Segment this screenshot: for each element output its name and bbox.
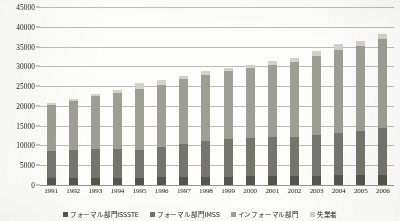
x-tick-label-1998: 1998 <box>195 187 217 199</box>
bar-segment-1993-1 <box>91 149 100 177</box>
y-tick-label-25000: 25000 <box>16 82 35 91</box>
bar-segment-2004-0 <box>334 175 343 185</box>
bar-1997[interactable] <box>179 45 188 185</box>
legend-swatch-icon-2 <box>231 212 236 217</box>
legend-item-3[interactable]: 失業者 <box>310 209 337 219</box>
legend-item-1[interactable]: フォーマル部門IMSS <box>150 209 220 219</box>
chart-legend: フォーマル部門ISSSTEフォーマル部門IMSSインフォーマル部門失業者 <box>0 209 400 219</box>
x-tick-label-1994: 1994 <box>106 187 128 199</box>
bar-segment-1991-2 <box>47 105 56 152</box>
bar-segment-1999-1 <box>224 139 233 177</box>
legend-label-0: フォーマル部門ISSSTE <box>70 209 139 219</box>
bar-slot-1998 <box>195 7 217 185</box>
plot-area <box>40 7 394 185</box>
bar-segment-1992-2 <box>69 101 78 150</box>
bar-2001[interactable] <box>268 37 277 185</box>
bar-segment-1999-2 <box>224 71 233 139</box>
bar-1992[interactable] <box>69 61 78 185</box>
bar-segment-2003-0 <box>312 176 321 185</box>
bar-slot-2004 <box>328 7 350 185</box>
bar-slot-1999 <box>217 7 239 185</box>
bar-segment-1996-1 <box>157 147 166 178</box>
bar-segment-1999-0 <box>224 177 233 185</box>
bar-1998[interactable] <box>201 43 210 185</box>
legend-swatch-icon-3 <box>310 212 315 217</box>
legend-item-2[interactable]: インフォーマル部門 <box>231 209 299 219</box>
x-tick-label-2005: 2005 <box>350 187 372 199</box>
legend-label-1: フォーマル部門IMSS <box>157 209 220 219</box>
legend-label-3: 失業者 <box>317 209 337 219</box>
y-tick-label-30000: 30000 <box>16 62 35 71</box>
x-tick-label-2000: 2000 <box>239 187 261 199</box>
bar-slot-2001 <box>261 7 283 185</box>
x-axis: 1991199219931994199519961997199819992000… <box>40 187 394 199</box>
y-axis: 0500010000150002000025000300003500040000… <box>0 7 40 185</box>
bar-slot-2003 <box>306 7 328 185</box>
x-tick-label-1992: 1992 <box>62 187 84 199</box>
bar-slot-1996 <box>151 7 173 185</box>
bar-1999[interactable] <box>224 41 233 185</box>
bar-segment-1998-1 <box>201 141 210 176</box>
x-tick-label-1995: 1995 <box>129 187 151 199</box>
bar-segment-2001-2 <box>268 65 277 137</box>
bar-slot-2005 <box>350 7 372 185</box>
bar-segment-2002-2 <box>290 62 299 136</box>
x-tick-label-2003: 2003 <box>306 187 328 199</box>
bar-1991[interactable] <box>47 64 56 185</box>
bar-slot-1995 <box>129 7 151 185</box>
bar-segment-2004-1 <box>334 133 343 175</box>
x-tick-label-1999: 1999 <box>217 187 239 199</box>
bar-1993[interactable] <box>91 58 100 185</box>
bar-2005[interactable] <box>356 25 365 185</box>
y-tick-label-0: 0 <box>31 181 35 190</box>
x-tick-label-1997: 1997 <box>173 187 195 199</box>
bar-1996[interactable] <box>157 49 166 185</box>
bar-segment-1997-2 <box>179 79 188 144</box>
bar-segment-1993-0 <box>91 178 100 185</box>
bar-segment-2006-0 <box>378 175 387 185</box>
bar-segment-2000-0 <box>246 176 255 185</box>
bar-segment-1996-0 <box>157 177 166 185</box>
bar-segment-1995-1 <box>135 150 144 178</box>
bar-2004[interactable] <box>334 27 343 185</box>
y-tick-label-15000: 15000 <box>16 121 35 130</box>
bar-segment-2005-1 <box>356 131 365 175</box>
bar-1995[interactable] <box>135 51 144 185</box>
y-tick-label-20000: 20000 <box>16 101 35 110</box>
bar-segment-2006-1 <box>378 128 387 175</box>
x-tick-label-2002: 2002 <box>283 187 305 199</box>
bar-segment-2005-2 <box>356 46 365 131</box>
bar-slot-2002 <box>283 7 305 185</box>
bar-segment-2000-1 <box>246 138 255 177</box>
bar-1994[interactable] <box>113 55 122 185</box>
gridline-0 <box>40 185 394 186</box>
x-tick-label-2006: 2006 <box>372 187 394 199</box>
legend-item-0[interactable]: フォーマル部門ISSSTE <box>63 209 139 219</box>
bar-segment-1996-2 <box>157 85 166 147</box>
x-tick-label-1993: 1993 <box>84 187 106 199</box>
legend-label-2: インフォーマル部門 <box>238 209 299 219</box>
bar-slot-1997 <box>173 7 195 185</box>
legend-swatch-icon-1 <box>150 212 155 217</box>
bar-segment-1993-2 <box>91 96 100 149</box>
bar-2000[interactable] <box>246 39 255 185</box>
bar-segment-2002-0 <box>290 176 299 185</box>
y-tick-label-35000: 35000 <box>16 42 35 51</box>
bar-segment-2000-2 <box>246 68 255 138</box>
bar-segment-1998-0 <box>201 177 210 185</box>
bar-segment-1995-2 <box>135 89 144 150</box>
y-tick-label-5000: 5000 <box>20 161 35 170</box>
bar-slot-1992 <box>62 7 84 185</box>
y-tick-label-40000: 40000 <box>16 22 35 31</box>
bar-segment-2004-2 <box>334 50 343 133</box>
bar-2002[interactable] <box>290 35 299 185</box>
bar-group <box>40 7 394 185</box>
bar-segment-2001-1 <box>268 137 277 176</box>
bar-2003[interactable] <box>312 31 321 185</box>
bar-segment-1994-0 <box>113 178 122 185</box>
bar-segment-1991-0 <box>47 178 56 185</box>
bar-segment-1998-2 <box>201 75 210 142</box>
bar-segment-1992-0 <box>69 178 78 185</box>
bar-2006[interactable] <box>378 21 387 185</box>
bar-segment-1995-0 <box>135 178 144 185</box>
